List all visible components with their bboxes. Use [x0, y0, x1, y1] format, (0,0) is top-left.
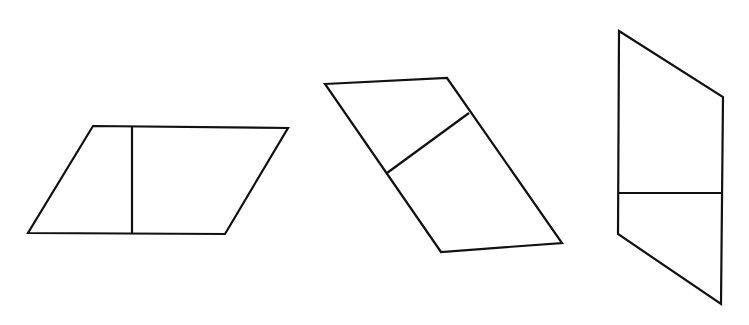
- parallelogram-1: [28, 126, 288, 234]
- parallelogram-2-outline: [325, 78, 562, 252]
- parallelogram-3: [618, 31, 723, 304]
- parallelogram-2-divider: [387, 113, 469, 173]
- parallelogram-2: [325, 78, 562, 252]
- parallelogram-1-outline: [28, 126, 288, 234]
- parallelogram-3-outline: [618, 31, 723, 304]
- figure-canvas: [0, 0, 749, 325]
